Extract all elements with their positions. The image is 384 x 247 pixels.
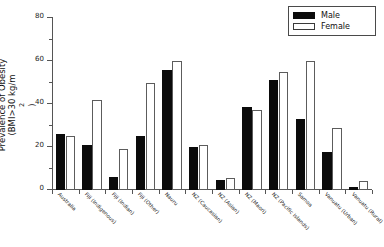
legend-swatch-male-icon (293, 12, 315, 19)
legend: Male Female (288, 6, 376, 36)
legend-item-female: Female (293, 21, 370, 32)
bar-chart: Prevalence of Obesity (BMI>30 kg/m2) 020… (0, 0, 384, 247)
y-axis-title-exponent: 2 (17, 59, 27, 152)
x-axis-label: Fiji (Indian) (110, 191, 135, 216)
legend-label-male: Male (321, 11, 340, 20)
legend-label-female: Female (321, 22, 350, 31)
y-axis-title: Prevalence of Obesity (BMI>30 kg/m2) (4, 30, 30, 180)
y-tick-minor (49, 39, 53, 40)
x-axis-label: NZ (Asian) (217, 191, 241, 215)
bar-male (349, 187, 359, 190)
y-tick-minor (49, 168, 53, 169)
x-axis-label: Samoa (297, 191, 314, 208)
y-tick-label: 60 (35, 55, 44, 63)
bar-male (216, 180, 226, 190)
x-axis-label: Nauru (164, 191, 180, 207)
bar-male (56, 134, 66, 190)
x-axis-label: NZ (Maori) (244, 191, 268, 215)
y-tick-minor (49, 82, 53, 83)
bar-female (306, 61, 316, 190)
bar-male (136, 136, 146, 190)
bar-male (109, 177, 119, 190)
bar-male (82, 145, 92, 190)
y-tick-label: 40 (35, 98, 44, 106)
y-tick-label: 0 (40, 184, 44, 192)
y-tick: 80 (47, 17, 53, 18)
y-axis-line (52, 18, 53, 190)
legend-item-male: Male (293, 10, 370, 21)
bar-female (279, 72, 289, 190)
bar-female (172, 61, 182, 190)
bar-male (269, 80, 279, 190)
legend-swatch-female-icon (293, 23, 315, 30)
x-axis-label: Fiji (Other) (137, 191, 161, 215)
bar-female (92, 100, 102, 190)
plot-area: 020406080 (52, 18, 372, 190)
y-tick-label: 20 (35, 141, 44, 149)
bar-female (359, 181, 369, 190)
bar-female (66, 136, 76, 190)
bar-female (226, 178, 236, 190)
bar-male (322, 152, 332, 190)
y-tick: 60 (47, 60, 53, 61)
bar-female (119, 149, 129, 190)
bar-male (189, 147, 199, 190)
bar-male (162, 70, 172, 190)
bar-male (296, 119, 306, 190)
y-tick: 40 (47, 103, 53, 104)
bar-female (252, 110, 262, 190)
x-axis-labels: AustraliaFiji (Indigenous)Fiji (Indian)F… (52, 191, 384, 247)
bar-female (332, 128, 342, 190)
y-axis-title-line2: (BMI>30 kg/m2) (7, 59, 37, 152)
y-tick-minor (49, 125, 53, 126)
bar-male (242, 107, 252, 190)
bar-female (146, 83, 156, 191)
y-axis-title-line1: Prevalence of Obesity (0, 59, 7, 152)
y-tick: 20 (47, 146, 53, 147)
y-tick-label: 80 (35, 12, 44, 20)
x-axis-label: Australia (57, 191, 78, 212)
bar-female (199, 145, 209, 190)
